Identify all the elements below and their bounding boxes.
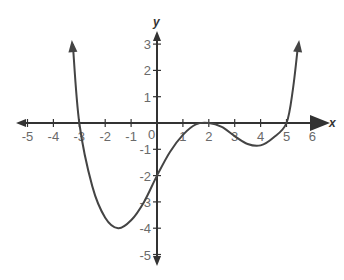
- y-tick-label: 2: [144, 63, 151, 78]
- x-axis-label: x: [328, 116, 337, 130]
- curve-left-arrow-icon: [68, 40, 77, 52]
- x-tick-label: 4: [257, 129, 264, 144]
- x-tick-label: -1: [125, 129, 137, 144]
- x-tick-label: -3: [74, 129, 86, 144]
- x-axis: -5-4-3-2-1123456 x: [16, 116, 337, 144]
- y-tick-label: -5: [139, 248, 151, 263]
- x-tick-label: 6: [309, 129, 316, 144]
- y-axis-label: y: [152, 15, 161, 29]
- y-tick-label: -4: [139, 221, 151, 236]
- y-ticks: 321-1-2-3-4-5: [139, 37, 161, 262]
- x-tick-label: 2: [205, 129, 212, 144]
- x-tick-label: -5: [22, 129, 34, 144]
- y-axis-up-arrow-icon: [153, 31, 161, 41]
- x-tick-label: -4: [48, 129, 60, 144]
- y-tick-label: 3: [144, 37, 151, 52]
- y-tick-label: 1: [144, 90, 151, 105]
- y-tick-label: -1: [139, 142, 151, 157]
- origin-label: 0: [148, 127, 155, 142]
- x-tick-label: -2: [99, 129, 111, 144]
- x-axis-left-arrow-icon: [16, 119, 26, 127]
- curve-right-arrow-icon: [293, 40, 302, 52]
- y-tick-label: -2: [139, 169, 151, 184]
- function-graph: -5-4-3-2-1123456 x 321-1-2-3-4-5 y 0: [0, 0, 344, 280]
- x-axis-right-arrow-icon: [316, 119, 326, 127]
- x-tick-label: 5: [283, 129, 290, 144]
- y-axis-down-arrow-icon: [153, 256, 161, 266]
